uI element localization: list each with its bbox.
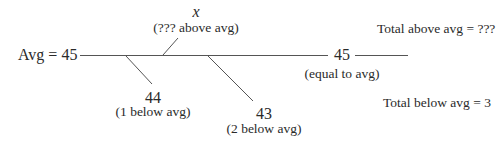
above-connector bbox=[163, 38, 178, 55]
below2-value: 43 bbox=[256, 106, 272, 122]
equal-note: (equal to avg) bbox=[305, 67, 380, 81]
below2-note: (2 below avg) bbox=[227, 122, 302, 136]
equal-value: 45 bbox=[334, 47, 350, 63]
below1-connector bbox=[126, 56, 152, 84]
below1-note: (1 below avg) bbox=[116, 105, 191, 119]
below2-connector bbox=[208, 56, 253, 101]
total-above: Total above avg = ??? bbox=[377, 22, 495, 36]
above-value: x bbox=[192, 4, 199, 20]
avg-label: Avg = 45 bbox=[18, 47, 77, 63]
above-note: (??? above avg) bbox=[153, 21, 238, 35]
total-below: Total below avg = 3 bbox=[383, 96, 491, 110]
